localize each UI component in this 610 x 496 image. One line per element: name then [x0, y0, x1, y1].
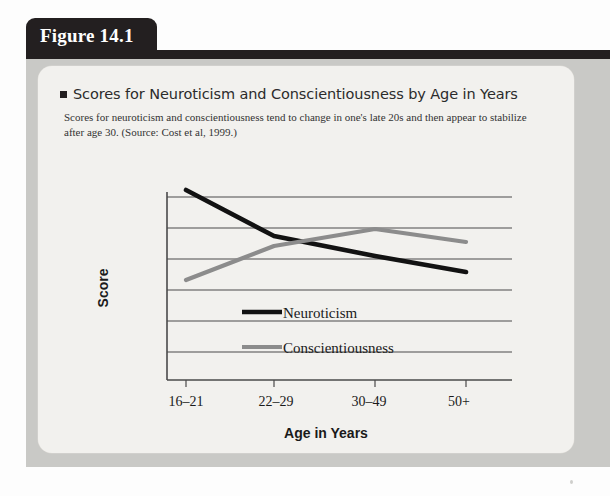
x-tick-label: 50+ — [448, 394, 470, 409]
line-chart-svg: Neuroticism Conscientiousness 16–21 22–2… — [38, 66, 574, 453]
chart-legend: Neuroticism Conscientiousness — [242, 305, 394, 356]
series-line-conscientiousness — [186, 229, 466, 280]
figure-page: Figure 14.1 Scores for Neuroticism and C… — [0, 0, 610, 496]
gridlines — [167, 197, 512, 352]
x-axis-ticks — [186, 380, 466, 387]
figure-number-label: Figure 14.1 — [40, 25, 134, 47]
chart-plot-area: Neuroticism Conscientiousness 16–21 22–2… — [38, 66, 574, 453]
legend-label-conscientiousness: Conscientiousness — [283, 340, 394, 356]
x-axis-title: Age in Years — [284, 425, 368, 441]
x-tick-label: 30–49 — [352, 394, 387, 409]
figure-card: Scores for Neuroticism and Conscientious… — [38, 66, 574, 453]
series-line-neuroticism — [186, 190, 466, 272]
y-axis-title: Score — [95, 268, 111, 307]
x-tick-label: 16–21 — [169, 394, 204, 409]
figure-number-tab: Figure 14.1 — [26, 18, 157, 56]
legend-label-neuroticism: Neuroticism — [283, 305, 357, 321]
scan-speck — [570, 480, 573, 484]
x-tick-label: 22–29 — [259, 394, 294, 409]
